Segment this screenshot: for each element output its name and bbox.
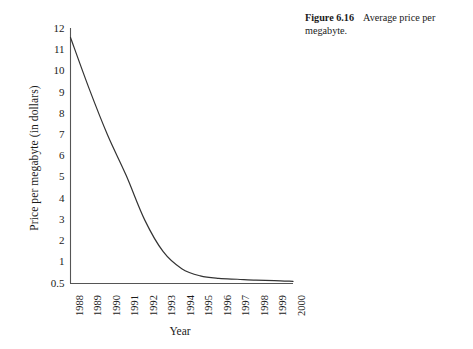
y-tick-label: 6 (37, 150, 65, 161)
y-tick-label: 8 (37, 108, 65, 119)
x-tick-label: 1993 (167, 295, 178, 316)
figure-container: Price per megabyte (in dollars) 0.512345… (0, 0, 473, 349)
figure-caption: Figure 6.16Average price per megabyte. (305, 11, 467, 38)
x-tick-label: 1998 (260, 295, 271, 316)
y-tick-label: 11 (37, 44, 65, 55)
y-tick-label: 12 (37, 23, 65, 34)
x-tick-label: 1990 (112, 295, 123, 316)
x-tick-label: 1992 (149, 295, 160, 316)
figure-number: Figure 6.16 (305, 12, 354, 23)
x-tick-label: 1996 (223, 295, 234, 316)
y-tick-label: 4 (37, 193, 65, 204)
y-tick-label: 7 (37, 129, 65, 140)
y-tick-label: 9 (37, 87, 65, 98)
x-tick-label: 2000 (297, 295, 308, 316)
y-tick-label: 2 (37, 235, 65, 246)
x-tick-label: 1997 (241, 295, 252, 316)
x-tick-label: 1989 (93, 295, 104, 316)
x-tick-label: 1994 (186, 295, 197, 316)
x-tick-label: 1991 (130, 295, 141, 316)
y-tick-label: 5 (37, 171, 65, 182)
chart-area: Price per megabyte (in dollars) 0.512345… (0, 0, 300, 349)
y-tick-label: 0.5 (37, 278, 65, 289)
x-tick-label: 1988 (75, 295, 86, 316)
x-tick-label: 1999 (278, 295, 289, 316)
y-tick-label: 10 (37, 65, 65, 76)
y-tick-label: 1 (37, 256, 65, 267)
y-tick-label: 3 (37, 214, 65, 225)
x-tick-label: 1995 (204, 295, 215, 316)
price-per-megabyte-curve (71, 37, 294, 281)
x-axis-title: Year (0, 325, 360, 337)
